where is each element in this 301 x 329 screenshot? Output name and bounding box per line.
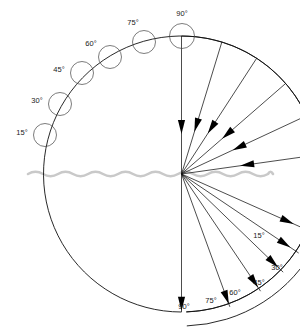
arrowhead-layer <box>178 117 294 310</box>
refracted-angle-label-15-lower: 15° <box>253 231 264 240</box>
incident-arrowhead-45 <box>222 127 235 139</box>
water-surface-layer <box>28 172 273 176</box>
refracted-angle-label-60-lower: 60° <box>229 288 240 297</box>
incident-angle-label-75: 75° <box>127 18 138 27</box>
refracted-ray-75-lower <box>182 174 230 307</box>
outer-refraction-arc <box>187 243 300 326</box>
angle-bubble-60 <box>99 46 122 69</box>
incident-angle-label-30: 30° <box>31 96 42 105</box>
refracted-arrowhead-30-lower <box>277 237 291 248</box>
incident-arrowhead-90 <box>178 120 185 134</box>
angle-bubble-30 <box>49 93 72 116</box>
incident-ray-75 <box>182 42 222 174</box>
refraction-diagram-svg: 15°30°45°60°75°90°15°30°45°60°75°90° <box>0 0 300 329</box>
incident-angle-label-15: 15° <box>16 128 27 137</box>
diagram-root: 15°30°45°60°75°90°15°30°45°60°75°90° <box>0 0 300 329</box>
incident-angle-label-90: 90° <box>176 9 187 18</box>
angle-bubble-75 <box>133 31 156 54</box>
refracted-angle-label-75-lower: 75° <box>205 296 216 305</box>
bubble-layer <box>34 24 195 147</box>
incident-arrowhead-60 <box>208 120 219 134</box>
refracted-angle-label-30-lower: 30° <box>271 263 282 272</box>
incident-arrowhead-30 <box>233 141 247 150</box>
incident-ray-45 <box>182 83 286 174</box>
angle-bubble-45 <box>71 62 94 85</box>
incident-arrowhead-75 <box>194 117 202 131</box>
incident-arrowhead-15 <box>240 160 254 167</box>
angle-label-layer: 15°30°45°60°75°90°15°30°45°60°75°90° <box>16 9 282 311</box>
refracted-arrowhead-15-lower <box>280 215 294 224</box>
refracted-arrowhead-75-lower <box>221 290 229 304</box>
water-surface-wave <box>28 172 273 176</box>
refracted-angle-label-45-lower: 45° <box>253 278 264 287</box>
incident-angle-label-45: 45° <box>53 65 64 74</box>
incident-angle-label-60: 60° <box>85 39 96 48</box>
angle-bubble-15 <box>34 124 57 147</box>
main-circle-arc-lower <box>44 36 300 312</box>
refracted-angle-label-90-lower: 90° <box>178 302 189 311</box>
incident-ray-15 <box>182 155 301 174</box>
refracted-ray-45-lower <box>182 174 284 272</box>
